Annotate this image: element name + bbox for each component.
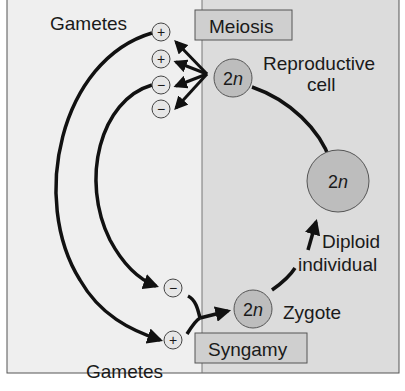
svg-text:−: − — [157, 101, 165, 117]
reproductive-cell-label-2: cell — [307, 74, 336, 95]
gametes-bottom-label: Gametes — [86, 361, 163, 382]
gamete-plus-bottom: + — [164, 331, 182, 349]
svg-text:+: + — [157, 24, 165, 40]
syngamy-label: Syngamy — [208, 339, 288, 360]
svg-text:+: + — [157, 51, 165, 67]
svg-text:2n: 2n — [223, 69, 243, 89]
reproductive-cell: 2n — [214, 59, 252, 97]
diploid-label-2: individual — [298, 254, 377, 275]
diploid-individual-cell: 2n — [307, 150, 369, 212]
zygote-cell: 2n — [234, 290, 272, 328]
left-panel — [7, 0, 202, 373]
gamete-minus-1: − — [152, 76, 170, 94]
gamete-minus-bottom: − — [164, 279, 182, 297]
gamete-plus-2: + — [152, 50, 170, 68]
meiosis-label-box: Meiosis — [195, 10, 292, 40]
reproductive-cell-label-1: Reproductive — [263, 53, 375, 74]
meiosis-label: Meiosis — [209, 16, 273, 37]
svg-text:+: + — [169, 332, 177, 348]
diploid-label-1: Diploid — [322, 231, 380, 252]
gametes-top-label: Gametes — [50, 13, 127, 34]
syngamy-label-box: Syngamy — [195, 333, 307, 363]
svg-text:2n: 2n — [243, 300, 263, 320]
meiosis-syngamy-diagram: Meiosis Syngamy + + − — [0, 0, 405, 391]
gamete-plus-1: + — [152, 23, 170, 41]
gamete-minus-2: − — [152, 100, 170, 118]
svg-text:2n: 2n — [328, 172, 348, 192]
svg-text:−: − — [157, 77, 165, 93]
zygote-label: Zygote — [283, 302, 341, 323]
svg-text:−: − — [169, 280, 177, 296]
